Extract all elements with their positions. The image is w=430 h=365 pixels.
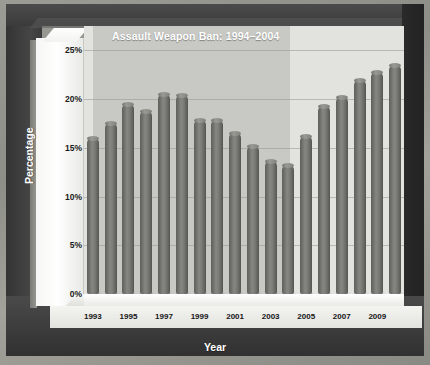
bar[interactable]: [229, 133, 241, 294]
plot-area: 0%5%10%15%20%25% 19931995199719992001200…: [30, 12, 410, 312]
bar[interactable]: [87, 138, 99, 294]
x-tick-label: 1993: [78, 312, 108, 321]
bar[interactable]: [389, 65, 401, 294]
bar[interactable]: [265, 161, 277, 294]
bar[interactable]: [336, 97, 348, 294]
chart-title: Assault Weapon Ban: 1994–2004: [112, 30, 280, 42]
bar[interactable]: [211, 120, 223, 294]
y-axis-title: Percentage: [23, 127, 35, 184]
y-axis-wall: [36, 38, 84, 306]
bar[interactable]: [158, 94, 170, 294]
x-tick-label: 2001: [220, 312, 250, 321]
bar[interactable]: [318, 106, 330, 294]
y-tick-label: 15%: [42, 143, 82, 153]
y-tick-label: 5%: [42, 240, 82, 250]
x-tick-label: 2007: [327, 312, 357, 321]
bar[interactable]: [247, 146, 259, 294]
bar[interactable]: [176, 95, 188, 294]
bar[interactable]: [354, 80, 366, 294]
x-axis-title: Year: [0, 341, 430, 353]
bar[interactable]: [300, 136, 312, 294]
x-tick-label: 2005: [291, 312, 321, 321]
x-tick-label: 1999: [185, 312, 215, 321]
bar[interactable]: [282, 165, 294, 294]
y-tick-label: 20%: [42, 94, 82, 104]
bar[interactable]: [194, 120, 206, 294]
x-tick-label: 1997: [149, 312, 179, 321]
gridline: [84, 50, 404, 51]
x-tick-label: 1995: [113, 312, 143, 321]
y-tick-label: 0%: [42, 289, 82, 299]
plot-canvas: [84, 26, 404, 294]
y-tick-label: 25%: [42, 45, 82, 55]
x-tick-label: 2003: [256, 312, 286, 321]
bar[interactable]: [140, 111, 152, 294]
bar[interactable]: [105, 123, 117, 294]
x-tick-label: 2009: [362, 312, 392, 321]
bar[interactable]: [122, 104, 134, 294]
bar[interactable]: [371, 72, 383, 294]
y-tick-label: 10%: [42, 192, 82, 202]
